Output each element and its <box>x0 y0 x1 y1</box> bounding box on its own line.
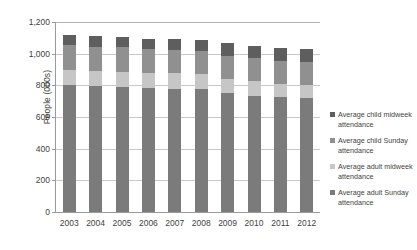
bar-segment <box>89 71 102 86</box>
bar-segment <box>116 37 129 47</box>
bar-segment <box>63 85 76 212</box>
bar-segment <box>300 85 313 98</box>
bar-segment <box>300 49 313 62</box>
bar-segment <box>89 86 102 212</box>
bar-segment <box>89 36 102 46</box>
bar-segment <box>274 48 287 61</box>
x-axis-tick-label: 2008 <box>192 218 211 228</box>
bar-segment <box>63 35 76 45</box>
chart-legend: Average child midweek attendanceAverage … <box>330 110 416 214</box>
y-axis-tick-label: 0 <box>45 208 50 217</box>
bar-segment <box>195 74 208 89</box>
legend-label: Average child Sunday attendance <box>338 136 416 155</box>
bar-group <box>248 46 261 212</box>
y-axis-tick-label: 200 <box>36 176 50 185</box>
bar-segment <box>248 58 261 81</box>
bar-segment <box>168 73 181 88</box>
bar-segment <box>274 84 287 97</box>
bar-segment <box>248 96 261 212</box>
x-axis-tick-label: 2005 <box>113 218 132 228</box>
bar-segment <box>168 89 181 213</box>
x-axis-tick-label: 2006 <box>139 218 158 228</box>
bar-segment <box>142 49 155 73</box>
bar-group <box>168 39 181 212</box>
legend-entry[interactable]: Average child Sunday attendance <box>330 136 416 155</box>
plot-area: 02004006008001,0001,200 2003200420052006… <box>56 22 320 212</box>
bar-segment <box>221 79 234 93</box>
x-axis-tick-label: 2010 <box>245 218 264 228</box>
bar-segment <box>142 39 155 49</box>
bar-segment <box>116 87 129 212</box>
y-axis-tick-label: 600 <box>36 113 50 122</box>
y-axis-title: People (000s) <box>42 52 52 142</box>
bar-segment <box>248 81 261 95</box>
bar-segment <box>168 50 181 74</box>
legend-label: Average adult midweek attendance <box>338 162 416 181</box>
legend-entry[interactable]: Average child midweek attendance <box>330 110 416 129</box>
bar-segment <box>116 72 129 87</box>
bar-segment <box>116 47 129 72</box>
bar-segment <box>63 45 76 70</box>
bar-segment <box>274 97 287 212</box>
bar-group <box>274 48 287 212</box>
bar-segment <box>221 56 234 79</box>
legend-entry[interactable]: Average adult Sunday attendance <box>330 188 416 207</box>
legend-label: Average child midweek attendance <box>338 110 416 129</box>
x-axis-tick-label: 2011 <box>271 218 289 228</box>
bar-segment <box>195 51 208 75</box>
legend-entry[interactable]: Average adult midweek attendance <box>330 162 416 181</box>
bar-segment <box>300 98 313 212</box>
gridline <box>56 212 320 213</box>
bar-segment <box>195 40 208 50</box>
bar-segment <box>89 47 102 72</box>
bar-group <box>221 43 234 212</box>
bar-segment <box>168 39 181 49</box>
bar-segment <box>195 89 208 212</box>
bar-segment <box>221 93 234 212</box>
y-axis-tick-label: 400 <box>36 144 50 153</box>
bar-segment <box>221 43 234 56</box>
legend-swatch-icon <box>330 112 335 117</box>
y-axis-tick <box>52 212 56 213</box>
bar-group <box>89 36 102 212</box>
bar-segment <box>248 46 261 59</box>
bar-segment <box>274 61 287 84</box>
y-axis-tick-label: 800 <box>36 81 50 90</box>
x-axis-tick-label: 2007 <box>165 218 184 228</box>
bar-group <box>300 49 313 212</box>
x-axis-tick-label: 2004 <box>86 218 105 228</box>
x-axis-tick-label: 2012 <box>297 218 316 228</box>
bar-group <box>142 39 155 212</box>
legend-swatch-icon <box>330 164 335 169</box>
stacked-bar-chart: People (000s) 02004006008001,0001,200 20… <box>0 0 417 250</box>
legend-label: Average adult Sunday attendance <box>338 188 416 207</box>
bar-segment <box>63 70 76 86</box>
bar-group <box>195 40 208 212</box>
x-axis-tick-label: 2009 <box>218 218 237 228</box>
y-axis-tick-label: 1,000 <box>29 49 50 58</box>
bar-group <box>116 37 129 212</box>
x-axis-tick-label: 2003 <box>60 218 79 228</box>
bar-series-container <box>56 22 320 212</box>
legend-swatch-icon <box>330 190 335 195</box>
y-axis-tick-label: 1,200 <box>29 18 50 27</box>
bar-group <box>63 35 76 212</box>
bar-segment <box>142 88 155 212</box>
legend-swatch-icon <box>330 138 335 143</box>
bar-segment <box>300 62 313 85</box>
bar-segment <box>142 73 155 88</box>
